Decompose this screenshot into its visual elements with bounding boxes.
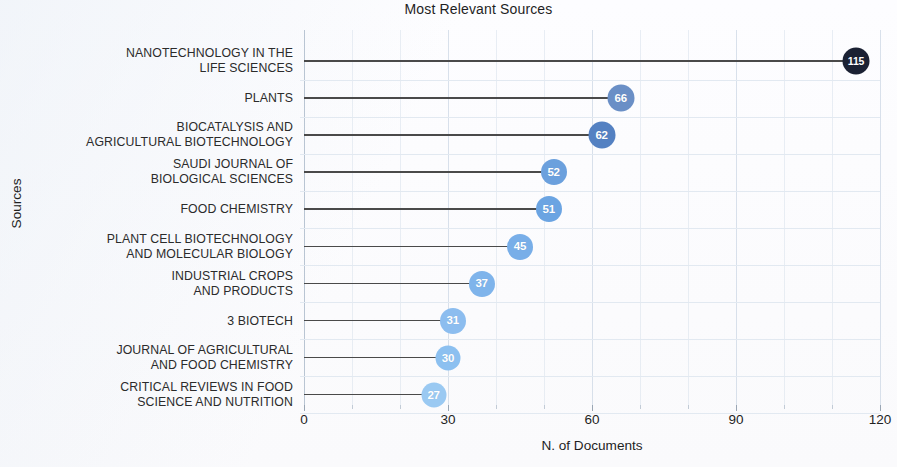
data-point-marker[interactable]: 37 (469, 271, 495, 297)
x-axis-tick-label: 90 (728, 412, 743, 427)
y-axis-category-labels: NANOTECHNOLOGY IN THE LIFE SCIENCESPLANT… (0, 30, 293, 405)
data-stem-line (304, 171, 552, 173)
data-stem-line (304, 283, 480, 285)
y-axis-label: SAUDI JOURNAL OF BIOLOGICAL SCIENCES (0, 157, 293, 187)
x-major-gridline (880, 30, 881, 405)
y-gridline (300, 117, 880, 118)
y-axis-label: INDUSTRIAL CROPS AND PRODUCTS (0, 269, 293, 299)
x-axis-tick (448, 405, 449, 411)
x-axis-tick (304, 405, 305, 411)
x-axis-tick-label: 120 (869, 412, 892, 427)
data-point-marker[interactable]: 27 (421, 382, 446, 407)
y-gridline (300, 154, 880, 155)
data-stem-line (304, 134, 600, 136)
data-point-marker[interactable]: 51 (536, 196, 562, 222)
x-axis-title: N. of Documents (304, 438, 880, 453)
data-point-marker[interactable]: 66 (607, 85, 634, 112)
x-axis-minor-tick (688, 405, 689, 409)
y-axis-label: 3 BIOTECH (0, 313, 293, 328)
data-point-marker[interactable]: 45 (507, 234, 533, 260)
x-major-gridline (736, 30, 737, 405)
y-gridline (300, 191, 880, 192)
data-point-marker[interactable]: 52 (541, 159, 567, 185)
plot-area: 115666252514537313027 (304, 30, 880, 405)
x-minor-gridline (688, 30, 689, 405)
x-axis-minor-tick (832, 405, 833, 409)
x-axis-tick-label: 60 (584, 412, 599, 427)
y-axis-label: JOURNAL OF AGRICULTURAL AND FOOD CHEMIST… (0, 343, 293, 373)
chart-title: Most Relevant Sources (0, 1, 897, 17)
data-stem-line (304, 357, 446, 359)
x-axis-minor-tick (352, 405, 353, 409)
y-axis-label: PLANT CELL BIOTECHNOLOGY AND MOLECULAR B… (0, 232, 293, 262)
data-stem-line (304, 320, 451, 322)
x-minor-gridline (784, 30, 785, 405)
x-major-gridline (592, 30, 593, 405)
x-minor-gridline (352, 30, 353, 405)
x-minor-gridline (640, 30, 641, 405)
data-stem-line (304, 246, 518, 248)
y-gridline (300, 302, 880, 303)
data-point-marker[interactable]: 30 (436, 345, 461, 370)
data-stem-line (304, 97, 619, 99)
y-gridline (300, 376, 880, 377)
x-axis-minor-tick (640, 405, 641, 409)
x-axis-tick (880, 405, 881, 411)
x-axis-minor-tick (400, 405, 401, 409)
x-axis-minor-tick (496, 405, 497, 409)
x-minor-gridline (400, 30, 401, 405)
y-gridline (300, 265, 880, 266)
y-axis-label: PLANTS (0, 91, 293, 106)
x-axis-tick (736, 405, 737, 411)
x-axis-tick-label: 0 (300, 412, 308, 427)
y-axis-label: NANOTECHNOLOGY IN THE LIFE SCIENCES (0, 46, 293, 76)
data-point-marker[interactable]: 31 (440, 308, 466, 334)
x-axis-tick (592, 405, 593, 411)
y-axis-title: Sources (9, 164, 24, 244)
y-axis-label: BIOCATALYSIS AND AGRICULTURAL BIOTECHNOL… (0, 120, 293, 150)
y-gridline (300, 339, 880, 340)
x-minor-gridline (832, 30, 833, 405)
y-gridline (300, 80, 880, 81)
data-stem-line (304, 60, 854, 62)
data-point-marker[interactable]: 115 (843, 48, 870, 75)
data-point-marker[interactable]: 62 (588, 122, 615, 149)
y-axis-label: CRITICAL REVIEWS IN FOOD SCIENCE AND NUT… (0, 380, 293, 410)
data-stem-line (304, 394, 432, 396)
data-stem-line (304, 208, 547, 210)
y-axis-label: FOOD CHEMISTRY (0, 202, 293, 217)
x-axis-tick-label: 30 (440, 412, 455, 427)
y-gridline (300, 228, 880, 229)
y-axis-line (304, 30, 305, 405)
x-minor-gridline (496, 30, 497, 405)
x-axis-minor-tick (784, 405, 785, 409)
x-axis-minor-tick (544, 405, 545, 409)
